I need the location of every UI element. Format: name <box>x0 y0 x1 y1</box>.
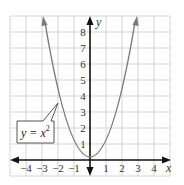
x-tick-label: −4 <box>20 162 32 174</box>
x-tick-label: −2 <box>52 162 64 174</box>
svg-text:y = x2: y = x2 <box>20 124 50 140</box>
y-tick-label: 2 <box>80 122 86 134</box>
equation-callout: y = x2 <box>17 103 58 143</box>
y-tick-label: 5 <box>80 74 86 86</box>
equation-text: y = x <box>20 126 46 140</box>
x-tick-label: −1 <box>68 162 80 174</box>
x-tick-label: 4 <box>151 162 157 174</box>
y-tick-label: 6 <box>80 58 86 70</box>
y-axis-up-arrow-icon <box>87 16 94 25</box>
y-tick-label: 7 <box>80 42 86 54</box>
x-tick-label: 2 <box>119 162 125 174</box>
y-tick-label: 1 <box>80 138 86 150</box>
y-axis-down-arrow-icon <box>87 167 94 176</box>
y-tick-label: 3 <box>80 106 86 118</box>
x-tick-label: 3 <box>135 162 141 174</box>
x-tick-label: 1 <box>103 162 109 174</box>
parabola-chart: −4 −3 −2 −1 1 2 3 4 x 1 2 3 4 5 6 7 8 y … <box>0 0 184 185</box>
equation-exponent: 2 <box>46 124 50 133</box>
x-axis-left-arrow-icon <box>10 157 19 164</box>
y-tick-label: 4 <box>80 90 86 102</box>
y-tick-labels: 1 2 3 4 5 6 7 8 <box>80 26 86 150</box>
x-axis-label: x <box>165 161 172 175</box>
y-tick-label: 8 <box>80 26 86 38</box>
x-tick-label: −3 <box>36 162 48 174</box>
y-axis-label: y <box>95 15 102 29</box>
